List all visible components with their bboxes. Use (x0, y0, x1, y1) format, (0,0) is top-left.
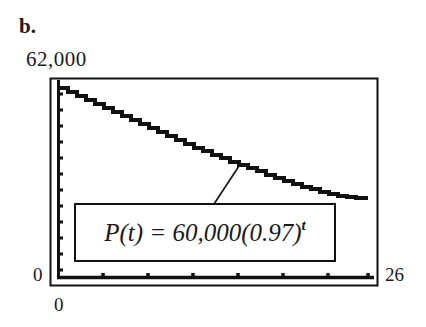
equation-callout-box: P(t) = 60,000(0.97)t (74, 203, 336, 262)
decay-curve (59, 88, 368, 198)
callout-leader-line (214, 166, 239, 204)
equation-exponent: t (302, 217, 306, 233)
equation-base: P(t) = 60,000(0.97) (104, 219, 301, 246)
figure-root: b. 62,000 0 0 26 (0, 0, 426, 327)
plot-canvas (0, 0, 426, 327)
equation-text: P(t) = 60,000(0.97)t (104, 220, 306, 245)
